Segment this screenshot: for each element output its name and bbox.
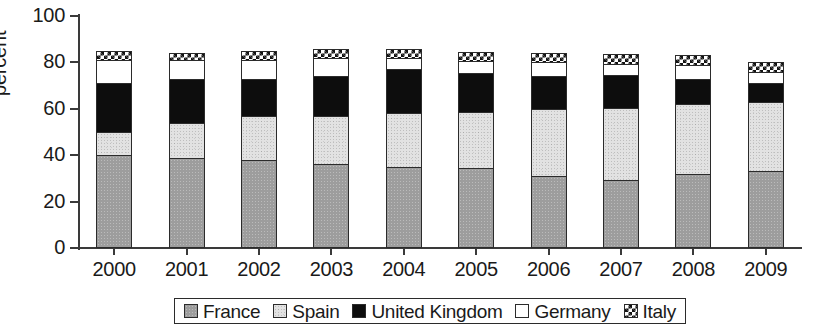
x-tick-mark-2004 <box>403 249 405 255</box>
stacked-bar-chart: percent 100806040200 2000200120022003200… <box>0 0 819 328</box>
bar-segment-spain-2007 <box>603 108 639 180</box>
bar-group-2005 <box>458 52 494 248</box>
y-tick-label-80: 80 <box>43 51 65 71</box>
bar-group-2002 <box>241 51 277 248</box>
bar-segment-italy-2001 <box>169 53 205 60</box>
bar-segment-united-kingdom-2005 <box>458 73 494 112</box>
x-tick-mark-2006 <box>548 249 550 255</box>
bar-segment-spain-2004 <box>386 113 422 166</box>
bar-segment-spain-2000 <box>96 132 132 155</box>
bar-segment-united-kingdom-2008 <box>675 79 711 105</box>
bar-segment-spain-2006 <box>531 109 567 176</box>
y-tick-label-60: 60 <box>43 98 65 118</box>
x-tick-label-2007: 2007 <box>585 258 657 281</box>
x-tick-mark-2009 <box>765 249 767 255</box>
swatch-germany-icon <box>515 304 529 318</box>
legend-item-italy[interactable]: Italy <box>624 302 676 321</box>
bar-segment-united-kingdom-2001 <box>169 79 205 123</box>
y-tick-mark-100 <box>70 15 78 17</box>
y-tick-mark-80 <box>70 61 78 63</box>
bar-segment-italy-2000 <box>96 51 132 60</box>
bar-segment-germany-2002 <box>241 60 277 79</box>
bar-segment-france-2007 <box>603 180 639 248</box>
bar-segment-united-kingdom-2003 <box>313 76 349 115</box>
x-tick-label-2004: 2004 <box>368 258 440 281</box>
bar-segment-spain-2009 <box>748 102 784 172</box>
y-tick-mark-40 <box>70 154 78 156</box>
bar-segment-france-2008 <box>675 174 711 248</box>
bar-segment-united-kingdom-2000 <box>96 83 132 132</box>
x-tick-label-2008: 2008 <box>657 258 729 281</box>
x-tick-label-2009: 2009 <box>730 258 802 281</box>
bar-segment-germany-2005 <box>458 61 494 73</box>
bar-segment-united-kingdom-2007 <box>603 75 639 107</box>
bar-segment-united-kingdom-2004 <box>386 69 422 113</box>
x-tick-mark-2002 <box>258 249 260 255</box>
bar-segment-italy-2002 <box>241 51 277 60</box>
bar-segment-united-kingdom-2002 <box>241 79 277 116</box>
bar-group-2006 <box>531 53 567 248</box>
bar-group-2001 <box>169 53 205 248</box>
bar-segment-germany-2001 <box>169 60 205 79</box>
bar-segment-spain-2001 <box>169 123 205 158</box>
x-tick-label-2005: 2005 <box>440 258 512 281</box>
bar-segment-italy-2005 <box>458 52 494 61</box>
bar-group-2007 <box>603 54 639 248</box>
bar-segment-france-2005 <box>458 168 494 248</box>
legend-label-italy: Italy <box>643 302 676 321</box>
y-tick-label-0: 0 <box>54 237 65 257</box>
bar-segment-germany-2007 <box>603 64 639 76</box>
bar-group-2008 <box>675 55 711 248</box>
bar-segment-germany-2008 <box>675 65 711 79</box>
bar-segment-italy-2008 <box>675 55 711 64</box>
y-tick-label-20: 20 <box>43 191 65 211</box>
legend-label-spain: Spain <box>292 302 339 321</box>
x-tick-mark-2008 <box>692 249 694 255</box>
bar-segment-spain-2008 <box>675 104 711 174</box>
bar-segment-italy-2009 <box>748 62 784 71</box>
x-tick-label-2006: 2006 <box>512 258 584 281</box>
bar-segment-spain-2005 <box>458 112 494 168</box>
legend-item-spain[interactable]: Spain <box>273 302 339 321</box>
bar-segment-germany-2000 <box>96 60 132 83</box>
legend-item-germany[interactable]: Germany <box>515 302 610 321</box>
bar-segment-italy-2004 <box>386 49 422 58</box>
legend-label-united-kingdom: United Kingdom <box>371 302 502 321</box>
bar-segment-france-2004 <box>386 167 422 248</box>
legend-item-united-kingdom[interactable]: United Kingdom <box>352 302 502 321</box>
legend-label-france: France <box>203 302 260 321</box>
bar-segment-united-kingdom-2009 <box>748 83 784 102</box>
x-tick-mark-2003 <box>330 249 332 255</box>
bar-group-2003 <box>313 49 349 248</box>
legend-item-france[interactable]: France <box>184 302 260 321</box>
y-axis-title: percent <box>0 0 11 96</box>
x-tick-mark-2001 <box>186 249 188 255</box>
bar-segment-germany-2006 <box>531 62 567 76</box>
x-tick-label-2002: 2002 <box>223 258 295 281</box>
bar-segment-italy-2007 <box>603 54 639 63</box>
y-tick-mark-0 <box>70 247 78 249</box>
bar-segment-italy-2003 <box>313 49 349 58</box>
bar-segment-france-2000 <box>96 155 132 248</box>
bar-segment-italy-2006 <box>531 53 567 62</box>
bar-segment-france-2009 <box>748 171 784 248</box>
bar-segment-united-kingdom-2006 <box>531 76 567 108</box>
chart-legend: FranceSpainUnited KingdomGermanyItaly <box>174 298 686 324</box>
bar-segment-france-2003 <box>313 164 349 248</box>
x-tick-label-2003: 2003 <box>295 258 367 281</box>
x-tick-mark-2007 <box>620 249 622 255</box>
bar-group-2009 <box>748 62 784 248</box>
swatch-france-icon <box>184 304 198 318</box>
bar-segment-france-2006 <box>531 176 567 248</box>
swatch-italy-icon <box>624 304 638 318</box>
bar-group-2000 <box>96 51 132 248</box>
y-tick-label-100: 100 <box>33 5 65 25</box>
bar-segment-germany-2004 <box>386 58 422 70</box>
x-tick-label-2000: 2000 <box>78 258 150 281</box>
y-tick-label-40: 40 <box>43 144 65 164</box>
bar-segment-germany-2003 <box>313 58 349 77</box>
y-tick-mark-20 <box>70 201 78 203</box>
bar-segment-germany-2009 <box>748 72 784 84</box>
y-tick-mark-60 <box>70 108 78 110</box>
plot-area <box>78 16 802 248</box>
